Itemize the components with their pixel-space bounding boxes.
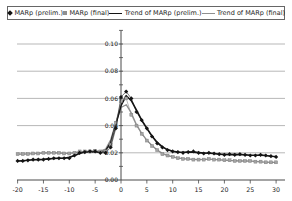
square-marker-icon [63, 11, 67, 15]
svg-text:-5: -5 [92, 186, 98, 193]
svg-text:0: 0 [119, 186, 123, 193]
legend-item-trend-final: Trend of MARp (final) [202, 9, 286, 17]
legend-label: MARp (prelim.) [15, 9, 64, 17]
legend-item-marp-final: MARp (final) [63, 9, 109, 17]
legend-label: Trend of MARp (prelim.) [125, 9, 202, 17]
legend-item-marp-prelim: MARp (prelim.) [8, 9, 63, 17]
legend-label: Trend of MARp (final) [217, 9, 285, 17]
svg-text:-20: -20 [12, 186, 22, 193]
svg-text:-15: -15 [38, 186, 48, 193]
svg-text:20: 20 [220, 186, 228, 193]
legend: MARp (prelim.) MARp (final) Trend of MAR… [7, 6, 285, 20]
legend-label: MARp (final) [70, 9, 110, 17]
svg-text:-10: -10 [64, 186, 74, 193]
svg-text:0.06: 0.06 [105, 95, 119, 102]
svg-text:25: 25 [246, 186, 254, 193]
svg-text:0.08: 0.08 [105, 67, 119, 74]
svg-text:5: 5 [145, 186, 149, 193]
chart-figure: -20-15-10-50510152025300.000.020.040.060… [0, 0, 292, 201]
svg-text:10: 10 [169, 186, 177, 193]
svg-text:15: 15 [195, 186, 203, 193]
diamond-marker-icon [7, 10, 13, 16]
plot-area: -20-15-10-50510152025300.000.020.040.060… [0, 0, 292, 201]
svg-text:0.10: 0.10 [105, 40, 119, 47]
svg-text:30: 30 [272, 186, 280, 193]
legend-item-trend-prelim: Trend of MARp (prelim.) [109, 9, 201, 17]
trend-line-icon [202, 13, 215, 14]
trend-line-icon [109, 13, 122, 14]
svg-text:0.00: 0.00 [105, 176, 119, 183]
